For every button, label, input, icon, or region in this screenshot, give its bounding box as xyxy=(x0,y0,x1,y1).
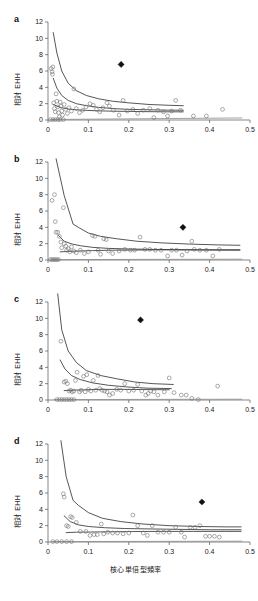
y-tick-label: 0 xyxy=(39,396,43,403)
ehh-figure: a相対 EHH02468101200.10.20.30.40.5b相対 EHH0… xyxy=(0,0,258,601)
x-tick-label: 0.4 xyxy=(205,126,215,133)
y-tick-label: 12 xyxy=(35,440,43,447)
data-point xyxy=(211,254,215,258)
data-point xyxy=(60,109,64,113)
x-tick-label: 0 xyxy=(46,126,50,133)
data-point xyxy=(121,99,125,103)
data-point xyxy=(62,103,66,107)
y-tick-label: 10 xyxy=(35,175,43,182)
data-point xyxy=(179,393,183,397)
data-point xyxy=(105,390,109,394)
data-point xyxy=(94,388,98,392)
x-tick-label: 0.4 xyxy=(205,548,215,555)
data-point xyxy=(221,107,225,111)
y-tick-label: 4 xyxy=(39,506,43,513)
envelope-curve-upper xyxy=(56,159,240,246)
y-tick-label: 0 xyxy=(39,538,43,545)
data-point xyxy=(59,339,63,343)
data-point xyxy=(167,530,171,534)
data-point xyxy=(198,524,202,528)
y-tick-label: 8 xyxy=(39,191,43,198)
y-tick-label: 4 xyxy=(39,364,43,371)
y-tick-label: 2 xyxy=(39,240,43,247)
y-tick-label: 4 xyxy=(39,84,43,91)
data-point xyxy=(91,379,95,383)
data-point xyxy=(54,92,58,96)
data-point xyxy=(83,390,87,394)
data-point xyxy=(216,384,220,388)
data-point xyxy=(78,248,82,252)
envelope-curve-upper xyxy=(61,441,241,527)
data-point xyxy=(174,99,178,103)
data-point xyxy=(167,376,171,380)
x-tick-label: 0 xyxy=(46,548,50,555)
data-point xyxy=(61,113,65,117)
data-point xyxy=(78,111,82,115)
x-tick-label: 0.1 xyxy=(84,548,94,555)
y-tick-label: 12 xyxy=(35,18,43,25)
panel-a: a相対 EHH02468101200.10.20.30.40.5 xyxy=(0,8,258,148)
plot-area-a: 02468101200.10.20.30.40.5 xyxy=(0,8,258,148)
data-point xyxy=(123,247,127,251)
y-tick-label: 10 xyxy=(35,315,43,322)
data-point xyxy=(78,529,82,533)
y-tick-label: 2 xyxy=(39,522,43,529)
x-tick-label: 0.3 xyxy=(164,548,174,555)
data-point xyxy=(136,383,140,387)
data-point xyxy=(217,535,221,539)
x-tick-label: 0.2 xyxy=(124,126,134,133)
data-point xyxy=(170,248,174,252)
data-point xyxy=(145,534,149,538)
data-point xyxy=(60,246,64,250)
data-point xyxy=(184,393,188,397)
plot-area-c: 02468101200.10.20.30.40.5 xyxy=(0,288,258,430)
data-point xyxy=(175,248,179,252)
candidate-locus-marker xyxy=(118,61,124,67)
x-tick-label: 0.1 xyxy=(84,266,94,273)
data-point xyxy=(50,198,54,202)
y-tick-label: 6 xyxy=(39,347,43,354)
y-tick-label: 2 xyxy=(39,380,43,387)
data-point xyxy=(156,530,160,534)
x-tick-label: 0 xyxy=(46,406,50,413)
data-point xyxy=(117,113,121,117)
data-point xyxy=(121,532,125,536)
data-point xyxy=(180,253,184,257)
y-tick-label: 0 xyxy=(39,256,43,263)
data-point xyxy=(172,391,176,395)
y-tick-label: 6 xyxy=(39,207,43,214)
data-point xyxy=(111,252,115,256)
x-tick-label: 0.5 xyxy=(245,126,255,133)
y-tick-label: 0 xyxy=(39,116,43,123)
y-tick-label: 4 xyxy=(39,224,43,231)
x-axis-label: 核心単倍型頻率 xyxy=(110,564,162,574)
data-point xyxy=(74,379,78,383)
data-point xyxy=(53,193,57,197)
data-point xyxy=(136,112,140,116)
data-point xyxy=(131,513,135,517)
y-axis-label: 相対 EHH xyxy=(12,495,22,528)
data-point xyxy=(99,252,103,256)
data-point xyxy=(192,114,196,118)
x-tick-label: 0.3 xyxy=(164,406,174,413)
y-tick-label: 12 xyxy=(35,298,43,305)
panel-label-a: a xyxy=(14,14,19,24)
x-tick-label: 0.3 xyxy=(164,266,174,273)
x-tick-label: 0.4 xyxy=(205,266,215,273)
data-point xyxy=(208,534,212,538)
data-point xyxy=(162,390,166,394)
data-point xyxy=(117,249,121,253)
data-point xyxy=(75,370,79,374)
y-axis-label: 相対 EHH xyxy=(12,353,22,386)
data-point xyxy=(68,250,72,254)
envelope-curve-lower xyxy=(53,104,183,111)
candidate-locus-marker xyxy=(180,224,186,230)
data-point xyxy=(192,247,196,251)
data-point xyxy=(190,239,194,243)
data-point xyxy=(166,254,170,258)
y-tick-label: 2 xyxy=(39,100,43,107)
y-tick-label: 6 xyxy=(39,67,43,74)
data-point xyxy=(102,532,106,536)
candidate-locus-marker xyxy=(199,499,205,505)
y-tick-label: 8 xyxy=(39,51,43,58)
